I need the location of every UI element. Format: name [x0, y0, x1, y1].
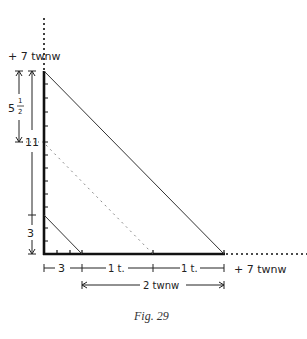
label-three-vertical: 3: [27, 227, 34, 240]
label-seg-1t-b: 1 t.: [181, 263, 198, 274]
label-fraction-num: 1: [18, 97, 22, 105]
dotted-diagonal: [46, 145, 153, 254]
label-fraction-den: 2: [18, 108, 22, 116]
small-diagonal: [44, 215, 82, 254]
figure-29-diagram: + 7 twnw 5 1 2 11 3 3 1 t. 1 t.: [0, 0, 307, 339]
large-diagonal: [44, 71, 224, 254]
label-five: 5: [8, 102, 15, 115]
label-seg-three: 3: [58, 262, 65, 275]
label-two-twnw: 2 twnw: [143, 280, 179, 291]
figure-caption: Fig. 29: [133, 309, 169, 323]
label-seg-1t-a: 1 t.: [108, 263, 125, 274]
right-axis-label: + 7 twnw: [234, 263, 287, 276]
top-axis-label: + 7 twnw: [8, 50, 61, 63]
dimension-five-half: [15, 71, 23, 142]
label-eleven: 11: [25, 136, 39, 149]
